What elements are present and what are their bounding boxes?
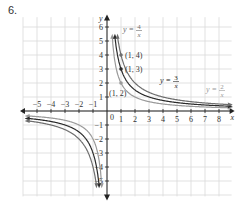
y-tick-label: 6 [99, 23, 103, 32]
point-label-1-4: (1, 4) [125, 51, 143, 60]
x-tick-label: 8 [217, 115, 221, 124]
origin-label: 0 [110, 113, 114, 122]
x-tick-label: −3 [61, 100, 70, 109]
y-tick-label: 1 [99, 93, 103, 102]
y-tick-label: 5 [99, 37, 103, 46]
y-tick-label: 2 [99, 79, 103, 88]
x-tick-label: 4 [161, 115, 165, 124]
fn-label-den: x [136, 31, 141, 39]
y-tick-label: −1 [94, 121, 103, 130]
fn-label-lhs: y = [205, 85, 217, 94]
x-tick-label: 7 [203, 115, 207, 124]
x-axis-label: x [230, 113, 235, 122]
point-1-2 [119, 81, 123, 85]
y-tick-label: 3 [99, 65, 103, 74]
fn-label-lhs: y = [122, 25, 134, 34]
y-axis-arrow-up-icon [104, 15, 110, 21]
fn-label-lhs: y = [159, 76, 171, 85]
label-y-3-over-x: y =3x [159, 74, 179, 90]
x-tick-label: −1 [89, 100, 98, 109]
point-1-4 [119, 53, 123, 57]
x-tick-label: 6 [189, 115, 193, 124]
x-tick-label: 2 [133, 115, 137, 124]
x-tick-label: −5 [33, 100, 42, 109]
curve-3-over-x-left [29, 119, 99, 184]
point-1-3 [119, 67, 123, 71]
x-tick-label: 1 [119, 115, 123, 124]
x-tick-label: 5 [175, 115, 179, 124]
x-axis-arrow-left-icon [20, 108, 25, 114]
x-tick-label: 3 [147, 115, 151, 124]
curve-arrow-up-icon [116, 34, 120, 39]
y-tick-label: −2 [94, 135, 103, 144]
fn-label-num: 3 [174, 74, 178, 82]
fn-label-num: 4 [137, 23, 141, 31]
point-label-1-3: (1, 3) [125, 65, 143, 74]
x-tick-label: −4 [47, 100, 56, 109]
label-y-4-over-x: y =4x [122, 23, 142, 39]
fn-label-den: x [219, 91, 224, 99]
y-axis-label: y [98, 14, 103, 23]
curve-arrow-left-icon [25, 119, 30, 123]
x-tick-label: −2 [75, 100, 84, 109]
fn-label-num: 2 [220, 83, 224, 91]
hyperbola-graph: xy−5−4−3−2−112345678654321−1−2−3−4−50(1,… [0, 0, 241, 203]
point-label-1-2: (1, 2) [109, 89, 127, 98]
y-tick-label: 4 [99, 51, 103, 60]
y-axis-arrow-down-icon [104, 194, 110, 200]
